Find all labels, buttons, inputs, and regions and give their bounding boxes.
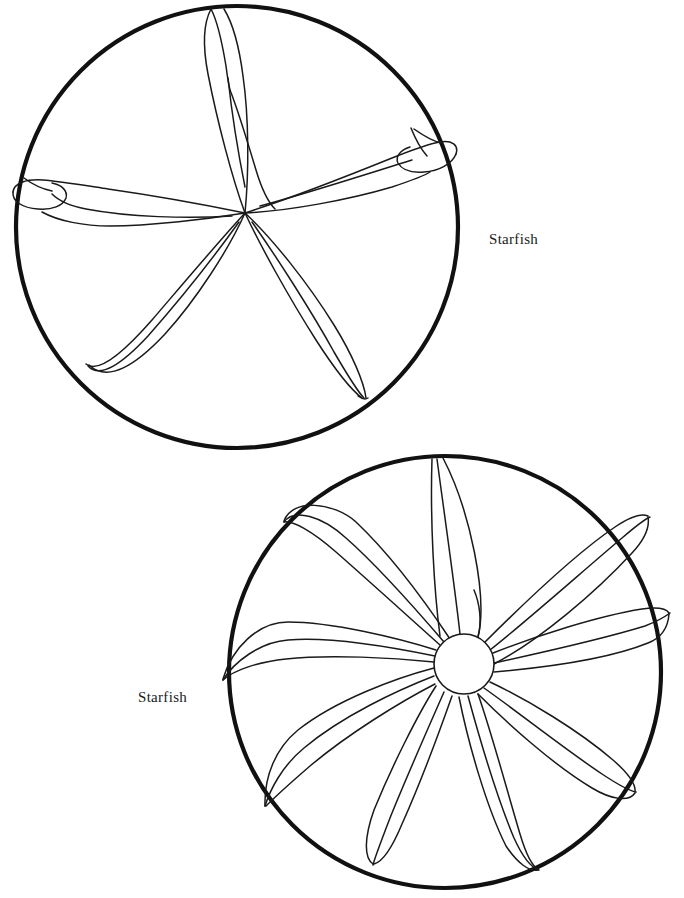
- page-background: [0, 0, 684, 898]
- starfish-artboard: [0, 0, 684, 898]
- label-starfish-top: Starfish: [489, 231, 538, 248]
- illustration-page: Starfish Starfish: [0, 0, 684, 898]
- bottom-central-disc: [434, 634, 494, 694]
- label-starfish-bottom: Starfish: [138, 689, 187, 706]
